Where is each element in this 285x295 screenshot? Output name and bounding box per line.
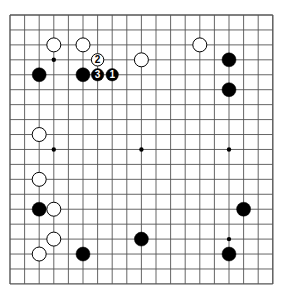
star-point-icon	[227, 147, 231, 151]
black-stone-icon	[237, 202, 251, 216]
white-stone[interactable]	[76, 38, 90, 52]
black-stone-icon	[32, 202, 46, 216]
white-stone-icon	[47, 38, 61, 52]
black-stone[interactable]	[134, 232, 148, 246]
white-stone-icon	[32, 172, 46, 186]
white-stone[interactable]	[134, 53, 148, 67]
black-stone-icon	[76, 68, 90, 82]
black-stone-icon	[222, 53, 236, 67]
white-stone[interactable]	[47, 232, 61, 246]
star-point-icon	[52, 58, 56, 62]
black-stone-icon	[222, 83, 236, 97]
black-stone[interactable]	[76, 68, 90, 82]
black-stone[interactable]	[222, 83, 236, 97]
black-stone[interactable]: 1	[106, 69, 118, 81]
white-stone-icon	[134, 53, 148, 67]
star-point-icon	[139, 147, 143, 151]
black-stone[interactable]	[222, 247, 236, 261]
black-stone-icon	[134, 232, 148, 246]
white-stone[interactable]	[47, 202, 61, 216]
white-stone-icon	[32, 128, 46, 142]
white-stone[interactable]	[32, 172, 46, 186]
black-stone[interactable]	[32, 202, 46, 216]
move-number-label: 3	[95, 69, 101, 80]
white-stone-icon	[32, 247, 46, 261]
move-number-label: 2	[95, 54, 101, 65]
move-number-label: 1	[109, 69, 115, 80]
white-stone[interactable]	[193, 38, 207, 52]
black-stone[interactable]: 3	[91, 69, 103, 81]
black-stone-icon	[222, 247, 236, 261]
black-stone-icon	[76, 247, 90, 261]
white-stone[interactable]: 2	[91, 54, 103, 66]
white-stone-icon	[76, 38, 90, 52]
go-board[interactable]: 231	[0, 0, 285, 295]
black-stone[interactable]	[76, 247, 90, 261]
black-stone[interactable]	[222, 53, 236, 67]
star-point-icon	[52, 147, 56, 151]
black-stone-icon	[32, 68, 46, 82]
white-stone-icon	[193, 38, 207, 52]
black-stone[interactable]	[32, 68, 46, 82]
white-stone[interactable]	[32, 128, 46, 142]
black-stone[interactable]	[237, 202, 251, 216]
white-stone[interactable]	[32, 247, 46, 261]
white-stone[interactable]	[47, 38, 61, 52]
white-stone-icon	[47, 202, 61, 216]
star-point-icon	[227, 237, 231, 241]
white-stone-icon	[47, 232, 61, 246]
